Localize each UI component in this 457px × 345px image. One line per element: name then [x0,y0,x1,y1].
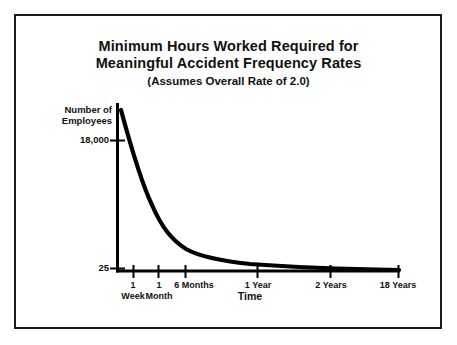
y-tick-label-25: 25 [46,262,109,273]
x-tick-label-18-years: 18 Years [380,280,416,291]
x-tick-label-1-week: 1 Week [121,280,144,301]
x-tick-label-6-months: 6 Months [174,280,214,291]
y-tick-label-18000: 18,000 [46,134,109,145]
y-axis-title-line-1: Number of [65,104,113,115]
y-axis-title-line-2: Employees [62,115,112,126]
x-tick-label-2-years: 2 Years [315,280,346,291]
x-tick-label-1-week-line2: Week [121,291,144,302]
x-axis-title: Time [238,290,262,302]
chart-page: Minimum Hours Worked Required for Meanin… [0,0,457,345]
x-tick-label-1-month: 1 Month [146,280,173,301]
decay-curve [121,110,399,270]
x-tick-label-1-month-line2: Month [146,291,173,302]
plot-area [0,0,457,345]
x-tick-label-1-month-line1: 1 [156,280,161,290]
x-tick-label-1-year: 1 Year [245,280,271,291]
y-axis-title: Number of Employees [46,104,112,126]
x-tick-label-1-week-line1: 1 [130,280,135,290]
